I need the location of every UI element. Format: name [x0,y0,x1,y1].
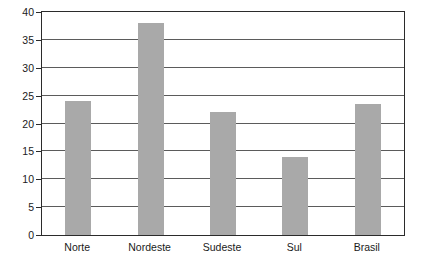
y-axis-tick-label: 20 [22,117,34,131]
bar [138,23,164,235]
y-axis-tick-label: 0 [28,228,34,242]
y-axis-tick-label: 10 [22,172,34,186]
x-axis-tick-label: Sudeste [186,240,258,254]
bar [210,112,236,235]
x-axis-tick-label: Norte [41,240,113,254]
y-axis-tick-label: 40 [22,5,34,19]
x-axis-tick-label: Sul [258,240,330,254]
y-axis-tick-label: 15 [22,144,34,158]
bar [355,104,381,235]
y-axis: 0510152025303540 [0,0,41,237]
y-axis-tick-label: 35 [22,33,34,47]
bar [282,157,308,235]
x-axis: NorteNordesteSudesteSulBrasil [41,240,405,260]
x-axis-tick-label: Nordeste [113,240,185,254]
x-axis-tick-label: Brasil [331,240,403,254]
y-axis-tick-label: 5 [28,200,34,214]
bars-layer [42,12,404,235]
y-axis-tick-label: 25 [22,89,34,103]
bar-chart-figure: 0510152025303540 NorteNordesteSudesteSul… [0,0,425,267]
bar [65,101,91,235]
y-axis-tick-label: 30 [22,61,34,75]
plot-area [41,11,405,236]
